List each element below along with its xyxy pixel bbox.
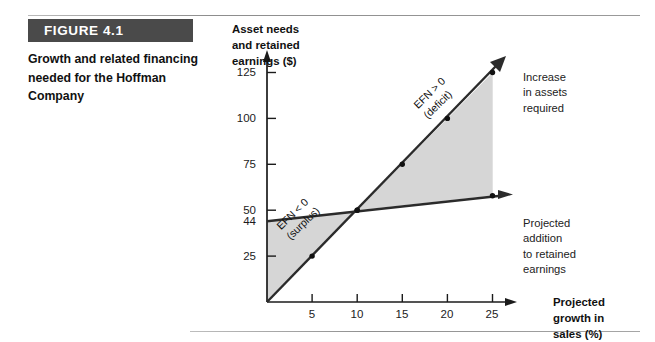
x-tick-label-25: 25 — [479, 308, 505, 320]
x-tick-label-20: 20 — [434, 308, 460, 320]
figure-number-label: FIGURE 4.1 — [44, 23, 124, 38]
retained-earnings-arrowhead — [498, 190, 513, 199]
callout-increase-in-assets: Increase in assets required — [523, 70, 567, 116]
y-tick-label-25: 25 — [226, 250, 256, 262]
x-axis-arrowhead — [505, 298, 517, 306]
figure-number-bar: FIGURE 4.1 — [28, 19, 193, 42]
x-axis — [267, 298, 517, 306]
y-axis-title: Asset needs and retained earnings ($) — [232, 21, 300, 70]
x-tick-label-15: 15 — [389, 308, 415, 320]
x-tick-label-5: 5 — [299, 308, 325, 320]
figure-caption: Growth and related financing needed for … — [28, 50, 213, 106]
callout-projected-addition: Projected addition to retained earnings — [523, 216, 576, 278]
x-axis-title: Projected growth in sales (%) — [553, 294, 605, 342]
y-tick-label-44: 44 — [226, 215, 256, 227]
y-tick-label-125: 125 — [226, 66, 256, 78]
y-tick-label-50: 50 — [226, 204, 256, 216]
chart-figure: Asset needs and retained earnings ($) Pr… — [228, 16, 648, 332]
y-tick-label-100: 100 — [226, 112, 256, 124]
x-axis-ticks — [312, 294, 492, 302]
y-tick-label-75: 75 — [226, 158, 256, 170]
x-tick-label-10: 10 — [344, 308, 370, 320]
